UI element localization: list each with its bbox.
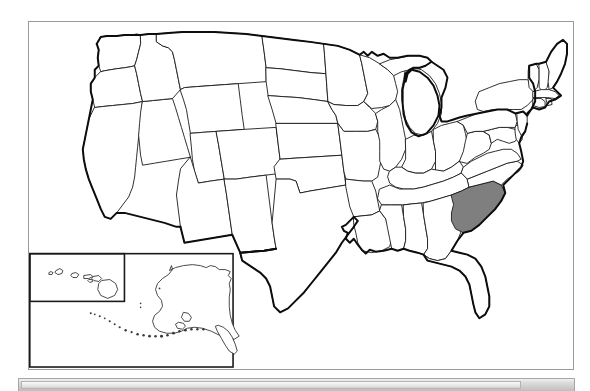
hawaii-island-niihau <box>49 272 53 275</box>
aleutian-dot <box>142 334 144 336</box>
aleutian-dot <box>124 329 126 331</box>
aleutian-dot <box>94 313 96 315</box>
map-frame: Blank United States map with one state s… <box>28 21 574 370</box>
state-borders-group <box>83 32 567 318</box>
pribilof-dot <box>159 288 161 290</box>
state-ohio[interactable] <box>434 121 468 171</box>
state-indiana[interactable] <box>402 131 436 173</box>
aleutian-dot <box>190 328 193 331</box>
screenshot-root: Blank United States map with one state s… <box>0 0 590 391</box>
state-oregon[interactable] <box>91 66 143 108</box>
alaska-landmass <box>153 265 240 354</box>
hawaii-island-molokai <box>84 275 93 279</box>
insets-group <box>30 254 239 367</box>
aleutian-dot <box>154 335 157 338</box>
scrollbar-thumb[interactable] <box>21 381 521 389</box>
hawaii-island-hawaii <box>98 280 118 299</box>
horizontal-scrollbar[interactable] <box>18 378 575 391</box>
aleutian-dot <box>109 320 111 322</box>
aleutian-dot <box>166 334 169 337</box>
aleutian-dot <box>148 335 151 338</box>
aleutian-dot <box>104 317 106 319</box>
state-new-mexico[interactable] <box>224 175 276 253</box>
state-illinois[interactable] <box>376 100 406 172</box>
aleutian-dot <box>202 328 205 331</box>
hawaii-island-lanai <box>88 280 93 283</box>
aleutian-dot <box>196 328 198 330</box>
aleutian-dot <box>172 332 175 335</box>
hawaii-islands <box>49 269 118 299</box>
alaska-mainland <box>153 265 240 340</box>
aleutian-dot <box>178 330 181 333</box>
aleutian-dot <box>99 315 101 317</box>
aleutian-dot <box>90 312 92 314</box>
hawaii-island-maui <box>92 276 102 282</box>
state-kansas[interactable] <box>276 123 342 159</box>
state-missouri[interactable] <box>338 123 382 181</box>
aleutian-dot <box>140 307 142 309</box>
aleutian-dot <box>140 303 142 305</box>
united-states-map <box>29 22 573 369</box>
state-wyoming[interactable] <box>180 84 244 134</box>
state-nevada[interactable] <box>139 99 191 166</box>
aleutian-dot <box>119 326 121 328</box>
hawaii-island-kauai <box>55 269 63 275</box>
hawaii-island-oahu <box>71 273 79 278</box>
aleutian-dot <box>160 335 163 338</box>
aleutian-dot <box>114 323 116 325</box>
aleutian-dot <box>136 333 139 336</box>
aleutian-dot <box>131 331 133 333</box>
aleutian-dot <box>184 329 187 332</box>
state-colorado[interactable] <box>216 127 282 179</box>
alaska-kodiak <box>175 322 185 329</box>
state-california[interactable] <box>83 102 143 219</box>
state-florida[interactable] <box>424 251 490 319</box>
state-new-york[interactable] <box>475 80 535 112</box>
